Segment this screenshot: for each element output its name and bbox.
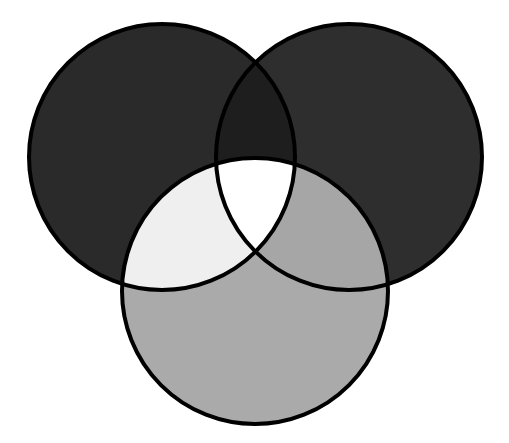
venn-diagram-canvas xyxy=(0,0,509,443)
three-set-venn-diagram xyxy=(0,0,509,443)
